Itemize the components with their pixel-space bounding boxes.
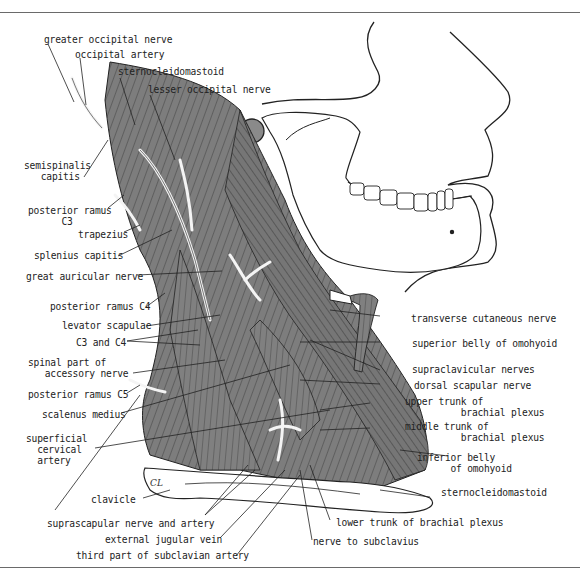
label-posterior-ramus-c4: posterior ramus C4 [50, 301, 150, 312]
label-trapezius: trapezius [78, 229, 128, 240]
label-nerve-to-subclavius: nerve to subclavius [313, 536, 419, 547]
label-inferior-belly-omohyoid: inferior belly of omohyoid [417, 452, 512, 474]
label-posterior-ramus-c3: posterior ramus C3 [28, 205, 112, 227]
label-levator-scapulae: levator scapulae [62, 320, 151, 331]
label-clavicle: clavicle [91, 494, 136, 505]
label-superior-belly-omohyoid: superior belly of omohyoid [412, 338, 557, 349]
label-c3-and-c4: C3 and C4 [76, 337, 126, 348]
label-occipital-artery: occipital artery [75, 49, 164, 60]
label-lower-trunk-brachial-plexus: lower trunk of brachial plexus [336, 517, 503, 528]
label-semispinalis-capitis: semispinalis capitis [24, 160, 91, 182]
label-transverse-cutaneous-nerve: transverse cutaneous nerve [411, 313, 556, 324]
label-scalenus-medius: scalenus medius [42, 409, 126, 420]
label-posterior-ramus-c5: posterior ramus C5 [28, 389, 128, 400]
label-third-part-subclavian-artery: third part of subclavian artery [76, 550, 249, 561]
label-upper-trunk-brachial-plexus: upper trunk of brachial plexus [405, 396, 544, 418]
label-sternocleidomastoid-bottom: sternocleidomastoid [441, 487, 547, 498]
label-spinal-part-accessory-nerve: spinal part of accessory nerve [28, 357, 128, 379]
label-lesser-occipital-nerve: lesser occipital nerve [148, 84, 271, 95]
label-splenius-capitis: splenius capitis [34, 250, 123, 261]
label-greater-occipital-nerve: greater occipital nerve [44, 34, 172, 45]
label-supraclavicular-nerves: supraclavicular nerves [412, 364, 535, 375]
label-middle-trunk-brachial-plexus: middle trunk of brachial plexus [405, 421, 544, 443]
label-suprascapular-nerve-artery: suprascapular nerve and artery [47, 518, 214, 529]
label-external-jugular-vein: external jugular vein [105, 534, 222, 545]
label-dorsal-scapular-nerve: dorsal scapular nerve [414, 380, 531, 391]
label-sternocleidomastoid-top: sternocleidomastoid [118, 66, 224, 77]
label-superficial-cervical-artery: superficial cervical artery [26, 433, 87, 466]
artist-signature: CL [150, 478, 163, 488]
label-great-auricular-nerve: great auricular nerve [26, 271, 143, 282]
